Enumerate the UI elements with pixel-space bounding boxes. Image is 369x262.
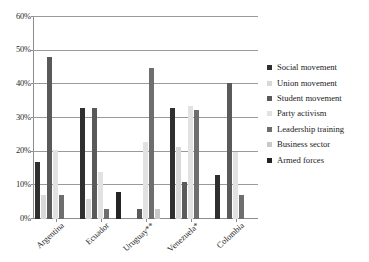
bar-group [33,17,78,219]
x-axis: ArgentinaEcuadorUruguay**Venezuela*Colom… [33,221,258,262]
legend-swatch-icon [267,81,272,86]
legend-label: Armed forces [277,156,324,165]
bar [116,192,121,219]
y-axis-tick-label: 40% [1,79,31,88]
legend-label: Business sector [277,140,330,149]
legend-swatch-icon [267,65,272,70]
legend-label: Union movement [277,79,337,88]
bar-group [123,17,168,219]
bar [35,162,40,219]
legend-label: Social movement [277,63,337,72]
legend-item[interactable]: Social movement [266,60,367,75]
bar [80,108,85,219]
y-axis: 0%10%20%30%40%50%60% [0,16,31,218]
bar [233,152,238,219]
bar [41,195,46,219]
legend-item[interactable]: Armed forces [266,152,367,167]
legend-item[interactable]: Party activism [266,106,367,121]
bar-group [168,17,213,219]
legend-label: Student movement [277,94,342,103]
x-axis-tick-label: Venezuela* [165,221,200,254]
bar [143,142,148,219]
y-axis-tick-label: 20% [1,146,31,155]
bar [149,68,154,220]
bar [188,106,193,219]
bar-group [78,17,123,219]
legend-label: Party activism [277,109,326,118]
legend-item[interactable]: Student movement [266,91,367,106]
bar [98,172,103,219]
bar [86,199,91,219]
legend-swatch-icon [267,96,272,101]
bar [239,195,244,219]
bar [176,147,181,219]
legend-label: Leadership training [277,125,344,134]
legend-swatch-icon [267,111,272,116]
legend: Social movementUnion movementStudent mov… [266,60,367,168]
bar [194,110,199,219]
legend-item[interactable]: Business sector [266,137,367,152]
y-axis-tick-label: 50% [1,45,31,54]
legend-item[interactable]: Leadership training [266,122,367,137]
bar [59,195,64,219]
bar-chart: 0%10%20%30%40%50%60% ArgentinaEcuadorUru… [0,0,369,262]
y-axis-tick-label: 10% [1,180,31,189]
y-axis-tick-label: 30% [1,113,31,122]
bar [155,209,160,219]
x-axis-tick-label: Ecuador [83,221,110,247]
bar [104,209,109,219]
bar [53,150,58,219]
legend-swatch-icon [267,158,272,163]
bar [137,209,142,219]
bar [170,108,175,219]
bar-groups [33,16,258,219]
legend-item[interactable]: Union movement [266,75,367,90]
bar [47,57,52,219]
x-axis-tick-label: Uruguay** [121,221,155,253]
bar [92,108,97,219]
x-axis-tick-label: Argentina [34,221,65,250]
y-axis-tick-label: 0% [1,214,31,223]
legend-swatch-icon [267,142,272,147]
x-axis-tick-label: Colombia [215,221,246,250]
bar [227,83,232,219]
bar [215,175,220,219]
legend-swatch-icon [267,127,272,132]
bar-group [213,17,258,219]
y-axis-tick-label: 60% [1,12,31,21]
bar [182,182,187,219]
